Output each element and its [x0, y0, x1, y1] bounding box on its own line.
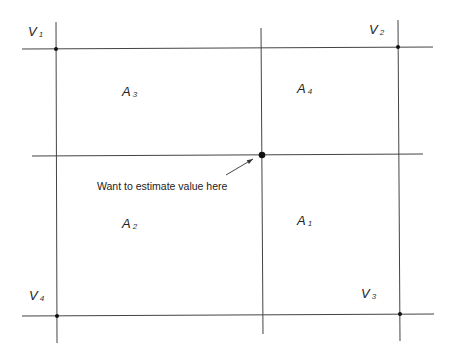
horizontal-line-2 — [32, 154, 423, 156]
area-label-a3: A3 — [121, 84, 138, 99]
vertex-dot-v3 — [398, 312, 402, 316]
area-label-a2: A2 — [121, 216, 138, 231]
vertex-label-v1: V1 — [28, 24, 43, 39]
vertex-labels: V1V2V3V4 — [28, 22, 385, 303]
vertex-dot-v4 — [55, 314, 59, 318]
vertical-line-1 — [56, 22, 57, 343]
horizontal-grid-lines — [22, 47, 434, 316]
vertex-label-v4: V4 — [29, 288, 45, 303]
target-point-dot — [259, 152, 266, 159]
vertex-label-v2: V2 — [369, 22, 385, 37]
arrow-head-icon — [247, 159, 253, 164]
vertex-dot-v1 — [54, 47, 58, 51]
annotation-text: Want to estimate value here — [97, 180, 228, 192]
area-labels: A1A2A3A4 — [121, 81, 313, 231]
horizontal-line-3 — [22, 314, 434, 316]
vertex-label-v3: V3 — [361, 286, 377, 301]
vertex-dot-v2 — [396, 45, 400, 49]
vertical-line-3 — [398, 20, 400, 341]
area-label-a4: A4 — [296, 81, 313, 96]
horizontal-line-1 — [22, 47, 433, 49]
interpolation-grid-diagram: V1V2V3V4 A1A2A3A4 Want to estimate value… — [0, 0, 451, 356]
vertical-line-2 — [261, 28, 263, 334]
area-label-a1: A1 — [296, 213, 312, 228]
